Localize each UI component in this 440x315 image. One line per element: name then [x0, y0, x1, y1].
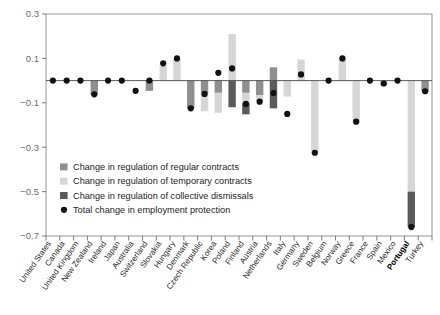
- total-change-dot: [394, 78, 400, 84]
- total-change-dot: [119, 78, 125, 84]
- total-change-dot: [50, 78, 56, 84]
- bar-segment-0: [270, 67, 277, 80]
- legend-marker-circle: [61, 207, 67, 213]
- total-change-dot: [284, 111, 290, 117]
- y-tick-label: 0.1: [26, 53, 39, 64]
- legend-label: Change in regulation of temporary contra…: [73, 176, 252, 186]
- total-change-dot: [215, 70, 221, 76]
- total-change-dot: [174, 55, 180, 61]
- legend-label: Total change in employment protection: [73, 205, 230, 215]
- total-change-dot: [77, 78, 83, 84]
- bar-segment-1: [159, 66, 166, 81]
- y-tick-label: 0.3: [26, 8, 39, 19]
- legend-swatch: [60, 192, 68, 199]
- total-change-dot: [105, 78, 111, 84]
- y-axis-ticks: 0.30.1−0.1−0.3−0.5−0.7: [20, 8, 46, 241]
- total-change-dot: [422, 88, 428, 94]
- total-change-dot: [133, 88, 139, 94]
- total-change-dot: [270, 90, 276, 96]
- total-change-dot: [312, 150, 318, 156]
- total-change-dot: [160, 60, 166, 66]
- y-tick-label: −0.3: [20, 142, 39, 153]
- bar-segment-1: [408, 81, 415, 192]
- total-change-dot: [146, 78, 152, 84]
- bar-segment-1: [173, 59, 180, 81]
- total-change-dot: [188, 105, 194, 111]
- y-tick-label: −0.1: [20, 97, 39, 108]
- legend-swatch: [60, 163, 68, 170]
- total-change-dot: [367, 78, 373, 84]
- chart-canvas: 0.30.1−0.1−0.3−0.5−0.7 United StatesCana…: [0, 0, 440, 315]
- bar-segment-0: [256, 81, 263, 95]
- plot-frame: [46, 14, 432, 236]
- bar-segment-0: [242, 81, 249, 93]
- total-change-dot: [408, 224, 414, 230]
- bar-segment-2: [228, 81, 235, 108]
- bar-segment-0: [187, 81, 194, 109]
- employment-protection-chart: 0.30.1−0.1−0.3−0.5−0.7 United StatesCana…: [0, 0, 440, 315]
- total-change-dot: [243, 101, 249, 107]
- legend-label: Change in regulation of regular contract…: [73, 162, 239, 172]
- total-change-dot: [353, 119, 359, 125]
- total-change-dot: [339, 55, 345, 61]
- bar-segment-1: [352, 81, 359, 122]
- total-change-dot: [326, 78, 332, 84]
- total-change-dot: [229, 65, 235, 71]
- total-change-dot: [91, 91, 97, 97]
- bar-segment-1: [284, 81, 291, 97]
- y-tick-label: −0.5: [20, 186, 39, 197]
- total-change-dot: [64, 78, 70, 84]
- legend-label: Change in regulation of collective dismi…: [73, 191, 254, 201]
- total-change-dot: [201, 91, 207, 97]
- y-tick-label: −0.7: [20, 230, 39, 241]
- total-change-dot: [257, 99, 263, 105]
- chart-legend: Change in regulation of regular contract…: [60, 162, 254, 215]
- bar-segment-1: [311, 81, 318, 153]
- bar-segment-2: [408, 192, 415, 228]
- total-change-dot: [298, 71, 304, 77]
- x-axis-labels: United StatesCanadaUnited KingdomNew Zea…: [18, 239, 426, 292]
- bar-segment-1: [215, 93, 222, 113]
- total-change-dot: [381, 80, 387, 86]
- bar-segment-1: [339, 58, 346, 80]
- bar-segment-0: [215, 81, 222, 93]
- bar-segment-1: [228, 34, 235, 81]
- legend-swatch: [60, 178, 68, 185]
- plot-area-border: [46, 14, 432, 236]
